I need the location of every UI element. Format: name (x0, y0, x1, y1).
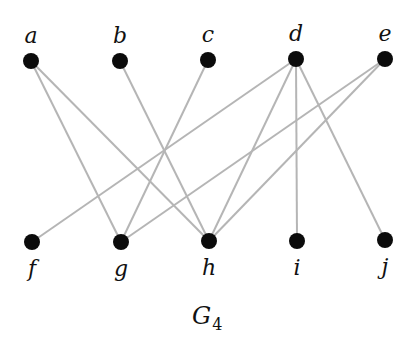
node-e (377, 51, 393, 67)
edge-a-g (31, 61, 121, 242)
node-d (288, 51, 304, 67)
edge-a-h (31, 61, 209, 241)
node-c (200, 52, 216, 68)
edge-e-g (121, 59, 385, 242)
edges-group (31, 59, 385, 242)
node-label-i: i (293, 255, 300, 280)
edge-d-f (32, 59, 296, 242)
node-label-h: h (202, 255, 216, 280)
edge-d-j (296, 59, 385, 240)
node-f (24, 234, 40, 250)
nodes-group: abcdefghij (23, 21, 393, 281)
node-label-j: j (377, 254, 389, 279)
node-h (201, 233, 217, 249)
node-label-c: c (202, 22, 214, 47)
node-label-b: b (113, 23, 127, 48)
node-a (23, 53, 39, 69)
bipartite-graph-g4: abcdefghij G4 (0, 0, 412, 343)
node-label-e: e (378, 21, 391, 46)
node-j (377, 232, 393, 248)
node-i (289, 233, 305, 249)
node-label-a: a (24, 23, 37, 48)
node-g (113, 234, 129, 250)
node-label-g: g (114, 256, 128, 281)
node-b (112, 53, 128, 69)
node-label-f: f (26, 256, 40, 281)
graph-caption: G4 (192, 302, 222, 334)
node-label-d: d (289, 21, 303, 46)
